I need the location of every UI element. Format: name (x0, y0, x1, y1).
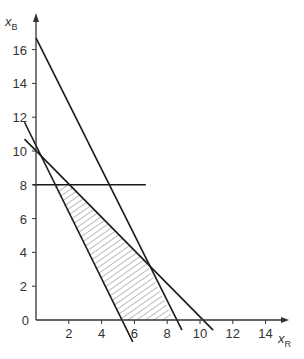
x-tick-label: 2 (65, 326, 72, 341)
x-tick-label: 6 (131, 326, 138, 341)
y-tick-label: 6 (20, 212, 27, 227)
feasible-region-polygon (53, 185, 173, 320)
x-tick-label: 14 (258, 326, 272, 341)
x-tick-label: 4 (98, 326, 105, 341)
y-tick-label: 14 (13, 76, 27, 91)
feasible-region (53, 185, 173, 320)
chart: 24681012140246810121416 xBxR (0, 0, 304, 359)
y-tick-label: 10 (13, 144, 27, 159)
y-axis-label: xB (4, 14, 18, 32)
x-tick-label: 12 (226, 326, 240, 341)
y-tick-label: 4 (20, 245, 27, 260)
x-axis-label: xR (277, 331, 292, 349)
x-tick-label: 8 (164, 326, 171, 341)
y-tick-label: 0 (22, 313, 29, 328)
y-axis-arrow-icon (33, 13, 39, 22)
x-tick-label: 10 (193, 326, 207, 341)
y-tick-label: 12 (13, 110, 27, 125)
y-tick-label: 16 (13, 43, 27, 58)
x-axis-arrow-icon (281, 317, 289, 323)
y-tick-label: 8 (20, 178, 27, 193)
y-tick-label: 2 (20, 279, 27, 294)
